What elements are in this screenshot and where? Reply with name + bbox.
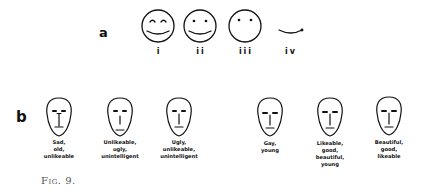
face-b5 (318, 98, 342, 136)
face-b3-description: Ugly, unlikeable, unintelligent (149, 139, 209, 160)
description-line: unintelligent (90, 153, 150, 160)
face-b3 (167, 98, 191, 136)
dot-eye-left-icon (238, 19, 239, 20)
figure-caption: Fig. 9. (41, 175, 76, 186)
description-line: likeable (359, 153, 419, 160)
description-line: unintelligent (149, 153, 209, 160)
face-b4-description: Gay, young (240, 140, 300, 154)
description-line: Likeable, (300, 140, 360, 147)
face-label-ii: ii (186, 48, 216, 56)
dot-eye-left-icon (193, 20, 194, 21)
schematic-face-iii (229, 10, 261, 42)
description-line: Gay, (240, 140, 300, 147)
description-line: Ugly, (149, 139, 209, 146)
face-b4 (258, 98, 282, 136)
description-line: Sad, (29, 139, 89, 146)
description-line: unlikeable, (149, 146, 209, 153)
description-line: ugly, (90, 146, 150, 153)
dot-eye-right-icon (205, 20, 206, 21)
schematic-face-ii (184, 10, 216, 42)
description-line: good, (300, 147, 360, 154)
description-line: unlikeable (29, 153, 89, 160)
face-b6-description: Beautiful, good, likeable (359, 139, 419, 160)
description-line: beautiful, (300, 154, 360, 161)
face-label-iii: iii (231, 48, 261, 56)
face-label-iv: iv (276, 48, 306, 56)
face-b2-description: Unlikeable, ugly, unintelligent (90, 139, 150, 160)
face-label-i: i (144, 48, 174, 56)
arc-eye-left-icon (150, 20, 155, 22)
face-b2 (108, 98, 132, 136)
face-b5-description: Likeable, good, beautiful, young (300, 140, 360, 168)
description-line: young (240, 147, 300, 154)
smile-icon (279, 30, 302, 33)
smile-icon (147, 31, 169, 34)
faces-drawing (0, 0, 425, 193)
description-line: good, (359, 146, 419, 153)
schematic-face-iv (279, 29, 303, 33)
description-line: young (300, 161, 360, 168)
figure-9: a b (0, 0, 425, 193)
schematic-face-i (142, 10, 174, 42)
mouth-corner-icon (301, 29, 303, 31)
face-b1 (47, 98, 71, 136)
face-outline-icon (184, 10, 216, 42)
face-b6 (377, 97, 401, 135)
smile-icon (189, 31, 211, 34)
face-outline-icon (229, 10, 261, 42)
face-outline-icon (142, 10, 174, 42)
description-line: Unlikeable, (90, 139, 150, 146)
description-line: Beautiful, (359, 139, 419, 146)
description-line: old, (29, 146, 89, 153)
arc-eye-right-icon (161, 20, 166, 22)
dot-eye-right-icon (250, 19, 251, 20)
face-b1-description: Sad, old, unlikeable (29, 139, 89, 160)
